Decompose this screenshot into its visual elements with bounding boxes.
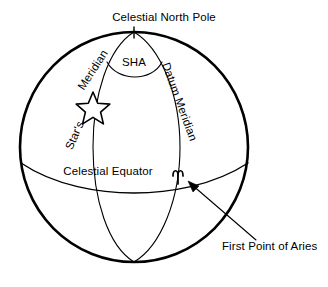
celestial-sphere-diagram: Celestial North Pole SHA Meridian Star's…	[0, 0, 328, 287]
label-celestial-equator: Celestial Equator	[63, 165, 152, 177]
arrow-pointer-icon	[188, 181, 256, 240]
label-celestial-north-pole: Celestial North Pole	[112, 11, 216, 23]
label-stars-meridian-word-meridian: Meridian	[75, 48, 110, 92]
star-icon	[76, 92, 110, 124]
label-stars-meridian-word-stars: Star's	[63, 119, 86, 151]
label-first-point-of-aries: First Point of Aries	[222, 240, 317, 252]
celestial-sphere-canvas: Celestial North Pole SHA Meridian Star's…	[0, 0, 328, 287]
label-sha: SHA	[122, 56, 146, 68]
aries-symbol-icon	[173, 171, 183, 184]
